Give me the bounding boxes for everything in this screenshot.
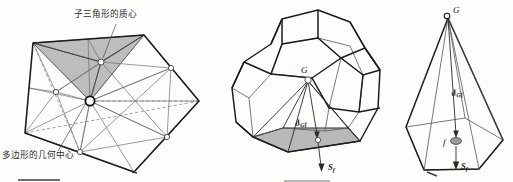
subtriangle-centroid-node — [98, 59, 104, 65]
figure-canvas: 子三角形的质心 多边形的几何中心 — [0, 0, 513, 182]
polygon-geometric-center-node — [85, 96, 94, 105]
label-face-f: f — [443, 137, 447, 147]
artifact-tick-right — [427, 172, 437, 176]
label-subtriangle-centroid: 子三角形的质心 — [74, 8, 137, 19]
panel-right-pyramid: G dGf f Sf — [406, 5, 503, 172]
vertex-node-a — [53, 89, 58, 94]
shaded-face-f — [253, 128, 360, 152]
label-centroid-G: G — [301, 65, 308, 75]
vertex-node-d — [77, 149, 82, 154]
d-subscript: Gf — [300, 121, 308, 128]
label-distance-d-Gf: dGf — [294, 116, 308, 130]
face-centroid-node — [315, 137, 320, 142]
label-apex-G: G — [453, 5, 460, 15]
scan-artifacts — [18, 172, 437, 181]
label-polygon-geometric-center: 多边形的几何中心 — [2, 149, 74, 160]
label-normal-S-f-right: Sf — [461, 161, 469, 172]
face-centroid-ellipse — [451, 138, 462, 145]
vector-S-f-right — [453, 146, 459, 170]
panel-left-polygon: 子三角形的质心 多边形的几何中心 — [2, 8, 199, 172]
artifact-tick-top — [132, 172, 137, 173]
panel-middle-dodecahedron: G dGf Sf — [232, 10, 380, 173]
apex-node-G — [444, 13, 450, 19]
S-subscript: f — [333, 167, 336, 173]
label-normal-S-f: Sf — [328, 162, 336, 173]
d-subscript-right: Gf — [456, 91, 464, 98]
vertex-node-c — [164, 134, 169, 139]
centroid-node-G — [305, 77, 311, 83]
vertex-node-b — [168, 65, 173, 70]
pyramid-inner-edges — [424, 18, 503, 170]
dodecahedron-top-facets — [244, 10, 380, 112]
